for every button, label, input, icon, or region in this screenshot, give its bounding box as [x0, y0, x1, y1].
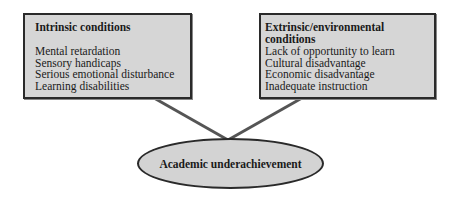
list-item: Economic disadvantage [265, 69, 395, 81]
list-item: Mental retardation [35, 46, 174, 58]
outcome-label: Academic underachievement [159, 158, 301, 170]
list-item: Learning disabilities [35, 81, 174, 93]
intrinsic-conditions-title: Intrinsic conditions [35, 21, 131, 33]
connector-right [228, 98, 302, 140]
extrinsic-conditions-list: Lack of opportunity to learn Cultural di… [265, 46, 395, 92]
list-item: Lack of opportunity to learn [265, 46, 395, 58]
extrinsic-conditions-title: Extrinsic/environmental conditions [265, 21, 434, 45]
list-item: Serious emotional disturbance [35, 69, 174, 81]
outcome-ellipse: Academic underachievement [137, 138, 324, 189]
extrinsic-conditions-box: Extrinsic/environmental conditions Lack … [259, 13, 436, 99]
intrinsic-conditions-box: Intrinsic conditions Mental retardation … [23, 13, 192, 99]
connector-left [154, 98, 228, 140]
list-item: Inadequate instruction [265, 81, 395, 93]
intrinsic-conditions-list: Mental retardation Sensory handicaps Ser… [35, 46, 174, 92]
